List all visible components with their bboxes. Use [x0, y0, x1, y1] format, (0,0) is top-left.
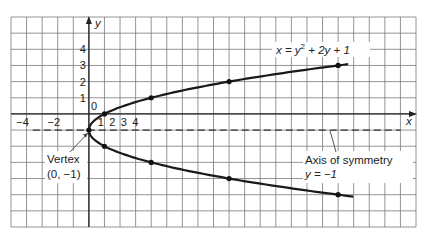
axis-label-line1: Axis of symmetry — [305, 154, 393, 166]
data-point — [336, 192, 341, 197]
x-tick-label: 3 — [121, 116, 127, 128]
x-tick-label: 2 — [109, 116, 115, 128]
parabola-chart: −4−2123443210−3−4 x = y2 + 2y + 1 Vertex… — [0, 0, 426, 237]
x-tick-label: 1 — [98, 116, 104, 128]
equation-label: x = y2 + 2y + 1 — [275, 42, 350, 56]
y-tick-label: 1 — [80, 92, 86, 104]
y-tick-label: 3 — [80, 59, 86, 71]
data-point — [336, 63, 341, 68]
vertex-label-line2: (0, −1) — [47, 168, 81, 180]
x-axis-label: x — [405, 115, 413, 127]
data-point — [226, 176, 231, 181]
data-point — [86, 127, 91, 132]
y-tick-label: 2 — [80, 76, 86, 88]
data-point — [102, 144, 107, 149]
x-tick-label: −4 — [16, 116, 29, 128]
y-tick-label: 4 — [80, 43, 86, 55]
y-tick-label: 0 — [91, 100, 97, 112]
vertex-arrow-icon — [83, 133, 88, 138]
axis-leader-line — [330, 131, 336, 152]
data-point — [226, 79, 231, 84]
axis-label-line2: y = −1 — [304, 168, 337, 180]
vertex-label-line1: Vertex — [47, 153, 80, 165]
data-point — [149, 160, 154, 165]
x-tick-label: −2 — [47, 116, 60, 128]
x-tick-label: 4 — [132, 116, 138, 128]
data-point — [149, 95, 154, 100]
